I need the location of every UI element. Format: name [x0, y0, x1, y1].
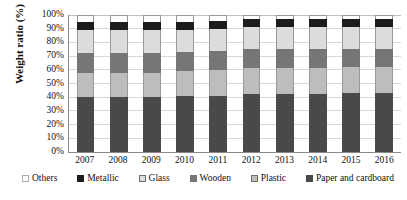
- bar-segment-plastic: [77, 73, 95, 98]
- bar-segment-wooden: [77, 53, 95, 72]
- bar-segment-wooden: [243, 49, 261, 68]
- bar-segment-metallic: [375, 19, 393, 27]
- bar-segment-metallic: [110, 22, 128, 30]
- bar-segment-plastic: [110, 73, 128, 98]
- bar-segment-glass: [375, 27, 393, 49]
- bar-stack: [342, 15, 360, 152]
- bar-stack: [143, 15, 161, 152]
- legend-label: Wooden: [200, 173, 231, 183]
- y-tick-label: 90%: [47, 24, 64, 34]
- bar-segment-plastic: [143, 73, 161, 98]
- legend-item-others[interactable]: Others: [22, 173, 57, 183]
- bar-segment-metallic: [276, 19, 294, 27]
- bar-column-2016: [369, 15, 400, 152]
- bar-segment-paper-and-cardboard: [243, 94, 261, 152]
- bars-layer: [69, 15, 401, 152]
- bar-column-2015: [336, 15, 367, 152]
- bar-segment-wooden: [276, 49, 294, 68]
- legend-item-paper-and-cardboard[interactable]: Paper and cardboard: [306, 173, 394, 183]
- y-axis-tick-labels: 0%10%20%30%40%50%60%70%80%90%100%: [26, 15, 66, 152]
- x-tick-label: 2010: [169, 154, 200, 168]
- y-tick-label: 20%: [47, 120, 64, 130]
- bar-segment-plastic: [375, 67, 393, 93]
- y-tick-label: 10%: [47, 134, 64, 144]
- legend-swatch-icon: [306, 175, 313, 182]
- bar-segment-metallic: [243, 19, 261, 27]
- legend-item-metallic[interactable]: Metallic: [77, 173, 119, 183]
- bar-segment-glass: [110, 30, 128, 53]
- legend-swatch-icon: [22, 175, 29, 182]
- legend-item-glass[interactable]: Glass: [139, 173, 170, 183]
- bar-segment-metallic: [209, 21, 227, 29]
- bar-segment-paper-and-cardboard: [342, 93, 360, 152]
- bar-stack: [110, 15, 128, 152]
- bar-segment-glass: [143, 30, 161, 53]
- stacked-bar-chart: Weight ratio (%) 0%10%20%30%40%50%60%70%…: [0, 0, 407, 200]
- bar-segment-wooden: [342, 49, 360, 67]
- y-axis-title: Weight ratio (%): [13, 0, 25, 109]
- y-tick-label: 0%: [51, 147, 64, 157]
- chart-legend: OthersMetallicGlassWoodenPlasticPaper an…: [22, 170, 394, 186]
- bar-stack: [176, 15, 194, 152]
- bar-segment-paper-and-cardboard: [77, 97, 95, 152]
- legend-swatch-icon: [77, 175, 84, 182]
- bar-segment-wooden: [209, 51, 227, 70]
- bar-segment-paper-and-cardboard: [276, 94, 294, 152]
- bar-segment-wooden: [309, 49, 327, 68]
- bar-column-2012: [236, 15, 267, 152]
- bar-stack: [243, 15, 261, 152]
- bar-column-2007: [70, 15, 101, 152]
- legend-item-wooden[interactable]: Wooden: [190, 173, 231, 183]
- y-tick-label: 80%: [47, 38, 64, 48]
- bar-stack: [77, 15, 95, 152]
- legend-swatch-icon: [139, 175, 146, 182]
- x-tick-label: 2014: [302, 154, 333, 168]
- bar-segment-plastic: [342, 67, 360, 93]
- bar-segment-plastic: [176, 71, 194, 96]
- x-tick-label: 2016: [369, 154, 400, 168]
- bar-segment-glass: [77, 30, 95, 53]
- plot-area: [68, 15, 401, 153]
- bar-segment-glass: [276, 27, 294, 49]
- x-tick-label: 2007: [69, 154, 100, 168]
- bar-stack: [276, 15, 294, 152]
- x-axis-tick-labels: 2007200820092010201120122013201420152016: [68, 154, 401, 168]
- bar-segment-metallic: [342, 19, 360, 27]
- bar-segment-glass: [342, 27, 360, 49]
- bar-segment-plastic: [243, 68, 261, 94]
- bar-segment-metallic: [143, 22, 161, 30]
- legend-label: Metallic: [87, 173, 119, 183]
- bar-segment-wooden: [176, 52, 194, 71]
- bar-segment-metallic: [309, 19, 327, 27]
- bar-column-2009: [137, 15, 168, 152]
- bar-segment-plastic: [209, 70, 227, 96]
- y-tick-label: 100%: [42, 10, 64, 20]
- bar-segment-glass: [243, 27, 261, 49]
- legend-label: Others: [32, 173, 57, 183]
- legend-label: Plastic: [261, 173, 286, 183]
- bar-column-2013: [269, 15, 300, 152]
- bar-segment-others: [77, 15, 95, 22]
- y-tick-label: 30%: [47, 106, 64, 116]
- bar-column-2008: [104, 15, 135, 152]
- bar-stack: [375, 15, 393, 152]
- y-tick-label: 70%: [47, 51, 64, 61]
- legend-label: Glass: [149, 173, 170, 183]
- bar-segment-metallic: [176, 22, 194, 30]
- bar-segment-paper-and-cardboard: [110, 97, 128, 152]
- bar-segment-plastic: [276, 68, 294, 94]
- bar-segment-wooden: [110, 53, 128, 72]
- bar-segment-others: [110, 15, 128, 22]
- y-tick-label: 50%: [47, 79, 64, 89]
- bar-segment-paper-and-cardboard: [143, 97, 161, 152]
- bar-column-2011: [203, 15, 234, 152]
- x-tick-label: 2013: [269, 154, 300, 168]
- legend-label: Paper and cardboard: [316, 173, 394, 183]
- x-tick-label: 2009: [136, 154, 167, 168]
- bar-column-2010: [170, 15, 201, 152]
- bar-segment-wooden: [143, 53, 161, 72]
- bar-segment-paper-and-cardboard: [176, 96, 194, 152]
- bar-segment-glass: [309, 27, 327, 49]
- legend-item-plastic[interactable]: Plastic: [251, 173, 286, 183]
- y-tick-label: 40%: [47, 92, 64, 102]
